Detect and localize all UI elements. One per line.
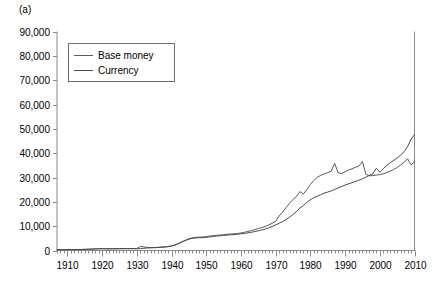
legend-label-base-money: Base money bbox=[98, 50, 154, 61]
data-series-group bbox=[57, 135, 415, 250]
x-tick-label: 1960 bbox=[230, 260, 253, 271]
x-tick-label: 1990 bbox=[334, 260, 357, 271]
y-tick-label: 30,000 bbox=[19, 173, 50, 184]
y-tick-label: 0 bbox=[44, 246, 50, 257]
y-tick-label: 80,000 bbox=[19, 51, 50, 62]
x-tick-label: 1980 bbox=[299, 260, 322, 271]
y-tick-label: 20,000 bbox=[19, 197, 50, 208]
y-tick-label: 50,000 bbox=[19, 124, 50, 135]
y-tick-label: 10,000 bbox=[19, 221, 50, 232]
x-axis-ticks: 1910192019301940195019601970198019902000… bbox=[56, 251, 427, 271]
chart-legend: Base money Currency bbox=[69, 44, 175, 82]
legend-label-currency: Currency bbox=[98, 65, 139, 76]
x-tick-label: 1920 bbox=[91, 260, 114, 271]
x-tick-label: 1930 bbox=[126, 260, 149, 271]
x-tick-label: 2010 bbox=[404, 260, 427, 271]
figure-panel-a: (a) 010,00020,00030,00040,00050,00060,00… bbox=[0, 0, 445, 282]
x-tick-label: 1940 bbox=[161, 260, 184, 271]
y-axis-ticks: 010,00020,00030,00040,00050,00060,00070,… bbox=[19, 27, 57, 257]
y-tick-label: 70,000 bbox=[19, 75, 50, 86]
series-line-base-money bbox=[57, 159, 415, 250]
y-tick-label: 40,000 bbox=[19, 148, 50, 159]
x-tick-label: 2000 bbox=[369, 260, 392, 271]
series-line-currency bbox=[57, 135, 415, 250]
line-chart: 010,00020,00030,00040,00050,00060,00070,… bbox=[0, 0, 445, 282]
x-tick-label: 1950 bbox=[195, 260, 218, 271]
y-tick-label: 60,000 bbox=[19, 100, 50, 111]
y-tick-label: 90,000 bbox=[19, 27, 50, 38]
x-tick-label: 1970 bbox=[265, 260, 288, 271]
x-tick-label: 1910 bbox=[56, 260, 79, 271]
